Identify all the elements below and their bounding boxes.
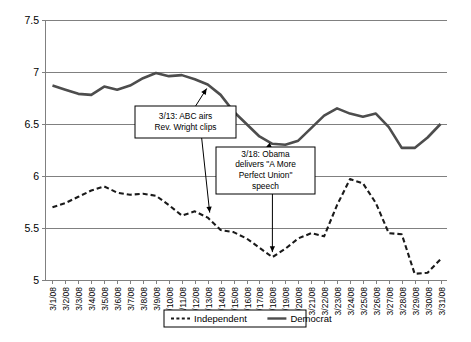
annotation-obama-speech-text-line: Perfect Union" xyxy=(239,170,293,180)
x-axis-tick-label: 3/23/08 xyxy=(333,287,343,316)
x-axis-tick-label: 3/30/08 xyxy=(424,287,434,316)
line-chart: 55.566.577.5 3/1/083/2/083/3/083/4/083/5… xyxy=(0,0,471,342)
annotation-obama-speech-text-line: delivers "A More xyxy=(235,159,296,169)
x-axis-tick-label: 3/6/08 xyxy=(113,287,123,311)
y-axis-tick-label: 7 xyxy=(33,66,39,78)
x-axis-tick-label: 3/8/08 xyxy=(139,287,149,311)
x-axis-tick-label: 3/29/08 xyxy=(411,287,421,316)
y-axis-tick-label: 5.5 xyxy=(24,222,39,234)
x-axis-tick-label: 3/22/08 xyxy=(320,287,330,316)
x-axis-tick-label: 3/9/08 xyxy=(152,287,162,311)
legend-label-democrat: Democrat xyxy=(290,313,332,324)
y-axis-tick-label: 7.5 xyxy=(24,14,39,26)
x-axis-tick-label: 3/5/08 xyxy=(100,287,110,311)
y-axis-tick-label: 6.5 xyxy=(24,118,39,130)
x-axis-tick-label: 3/28/08 xyxy=(398,287,408,316)
y-axis-tick-label: 5 xyxy=(33,274,39,286)
annotation-obama-speech-text-line: 3/18: Obama xyxy=(241,149,290,159)
x-axis-tick-label: 3/26/08 xyxy=(372,287,382,316)
annotation-abc-wright-text-line: Rev. Wright clips xyxy=(154,122,216,132)
chart-container: 55.566.577.5 3/1/083/2/083/3/083/4/083/5… xyxy=(0,0,471,342)
x-axis-tick-label: 3/21/08 xyxy=(307,287,317,316)
y-axis-tick-label: 6 xyxy=(33,170,39,182)
x-axis-tick-label: 3/3/08 xyxy=(74,287,84,311)
x-axis-tick-label: 3/4/08 xyxy=(87,287,97,311)
x-axis-tick-label: 3/1/08 xyxy=(48,287,58,311)
x-axis-tick-label: 3/7/08 xyxy=(126,287,136,311)
x-axis-tick-label: 3/25/08 xyxy=(359,287,369,316)
annotation-obama-speech-text-line: speech xyxy=(252,181,279,191)
annotation-abc-wright-text-line: 3/13: ABC airs xyxy=(159,111,213,121)
x-axis-tick-label: 3/31/08 xyxy=(437,287,447,316)
x-axis-tick-label: 3/2/08 xyxy=(61,287,71,311)
x-axis-tick-label: 3/27/08 xyxy=(385,287,395,316)
legend-label-independent: Independent xyxy=(194,313,247,324)
x-axis-tick-label: 3/24/08 xyxy=(346,287,356,316)
